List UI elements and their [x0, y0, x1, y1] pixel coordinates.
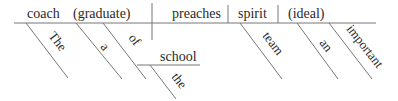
word-coach: coach [27, 6, 60, 21]
word-an: an [317, 36, 337, 55]
preposition-line-of [103, 23, 146, 79]
sentence-diagram: coach (graduate) preaches spirit (ideal)… [0, 0, 398, 101]
word-graduate: (graduate) [73, 6, 131, 22]
word-the-school: the [169, 70, 191, 92]
word-the-coach: The [46, 29, 70, 54]
word-important: important [344, 22, 387, 71]
word-ideal: (ideal) [288, 6, 325, 22]
modifier-line-a [76, 23, 122, 79]
modifier-line-an [297, 23, 338, 79]
word-team: team [260, 29, 287, 58]
word-spirit: spirit [238, 6, 267, 21]
word-a: a [98, 40, 114, 54]
word-of: of [126, 31, 145, 49]
word-preaches: preaches [172, 6, 221, 21]
word-school: school [160, 49, 197, 64]
